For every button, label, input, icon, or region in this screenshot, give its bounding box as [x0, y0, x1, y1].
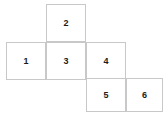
net-cell-2: 2 [46, 4, 86, 42]
net-cell-label: 5 [103, 91, 108, 100]
net-cell-label: 6 [142, 91, 147, 100]
net-cell-label: 1 [23, 57, 28, 66]
net-cell-label: 2 [63, 19, 68, 28]
cube-net-diagram: 2 1 3 4 5 6 [0, 0, 164, 116]
net-cell-1: 1 [6, 42, 46, 80]
net-cell-4: 4 [86, 42, 126, 80]
net-cell-6: 6 [126, 78, 163, 112]
net-cell-3: 3 [46, 42, 86, 80]
net-cell-label: 4 [103, 57, 108, 66]
net-cell-5: 5 [86, 78, 126, 112]
net-cell-label: 3 [63, 57, 68, 66]
